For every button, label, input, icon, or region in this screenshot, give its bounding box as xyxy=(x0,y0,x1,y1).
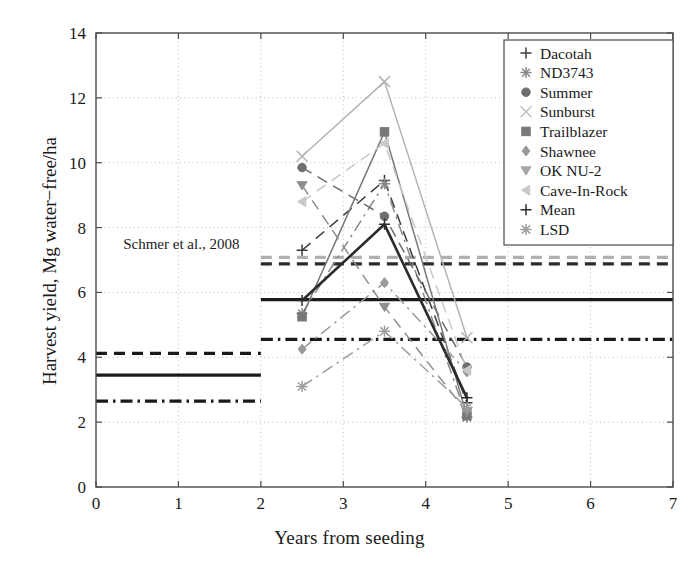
legend-label: LSD xyxy=(540,221,569,238)
y-axis-label: Harvest yield, Mg water−free/ha xyxy=(39,26,61,496)
x-tick-label: 1 xyxy=(174,494,183,513)
legend-label: ND3743 xyxy=(540,64,594,81)
legend-label: Shawnee xyxy=(540,143,596,160)
annotation-citation: Schmer et al., 2008 xyxy=(123,236,239,252)
x-axis-label: Years from seeding xyxy=(0,527,699,549)
y-tick-label: 4 xyxy=(78,348,87,367)
legend-label: Trailblazer xyxy=(540,123,608,140)
series-trailblazer xyxy=(298,128,471,420)
x-tick-label: 5 xyxy=(504,494,513,513)
y-tick-label: 0 xyxy=(78,478,87,497)
y-tick-label: 8 xyxy=(78,219,87,238)
y-tick-label: 2 xyxy=(78,413,87,432)
legend-label: Mean xyxy=(540,201,576,218)
harvest-yield-line-chart: 0123456702468101214 Schmer et al., 2008 … xyxy=(0,0,699,570)
annotations-layer: Schmer et al., 2008 xyxy=(123,236,239,252)
y-tick-label: 10 xyxy=(69,154,86,173)
legend-label: Cave-In-Rock xyxy=(540,182,628,199)
legend-label: Dacotah xyxy=(540,45,592,62)
y-tick-label: 6 xyxy=(78,283,87,302)
x-tick-label: 0 xyxy=(92,494,101,513)
legend-box: DacotahND3743SummerSunburstTrailblazerSh… xyxy=(504,40,673,245)
x-tick-label: 6 xyxy=(586,494,595,513)
figure-container: 0123456702468101214 Schmer et al., 2008 … xyxy=(0,0,699,570)
x-tick-label: 4 xyxy=(421,494,430,513)
legend-label: OK NU-2 xyxy=(540,162,602,179)
y-tick-label: 12 xyxy=(69,89,86,108)
x-tick-label: 7 xyxy=(669,494,678,513)
legend-label: Summer xyxy=(540,84,593,101)
data-series-layer xyxy=(297,77,472,423)
legend-label: Sunburst xyxy=(540,103,596,120)
y-tick-label: 14 xyxy=(69,24,87,43)
x-tick-label: 3 xyxy=(339,494,348,513)
x-tick-label: 2 xyxy=(257,494,266,513)
